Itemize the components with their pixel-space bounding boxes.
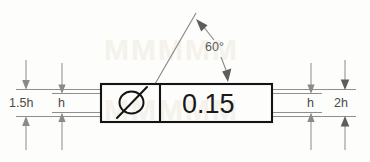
dimension-label-2h: 2h [334,96,348,110]
dimension-label-h-right: h [307,96,314,110]
dim-2h-lower-arrowhead [341,116,350,127]
dimension-label-1p5h: 1.5h [9,96,33,110]
right-dimension-group: h 2h [272,60,356,150]
dim-1p5h-upper-arrowhead [22,80,30,90]
angle-label-60deg: 60° [205,40,224,54]
angle-leader-lower-arrowhead [222,68,231,82]
dim-h-right-lower-arrowhead [307,113,314,123]
technical-drawing-canvas: MMMMM MMMMM 1.5h h [0,0,370,162]
dim-h-left-lower-arrowhead [58,113,65,123]
dimension-label-h-left: h [58,96,65,110]
tolerance-value: 0.15 [182,89,235,119]
drawing-svg: MMMMM MMMMM 1.5h h [0,0,370,162]
dim-1p5h-lower-arrowhead [22,116,30,126]
left-dimension-group: 1.5h h [9,60,101,150]
dim-2h-upper-arrowhead [341,80,350,91]
